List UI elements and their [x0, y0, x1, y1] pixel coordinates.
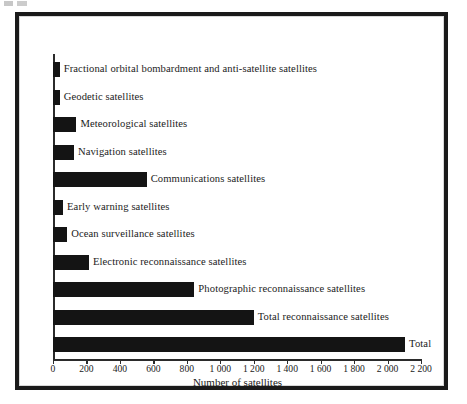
figure-frame: Fractional orbital bombardment and anti-…: [15, 12, 448, 390]
bar-label: Geodetic satellites: [60, 92, 144, 103]
bar-row: Geodetic satellites: [53, 84, 144, 112]
bar-row: Fractional orbital bombardment and anti-…: [53, 56, 317, 84]
bar-label: Total: [405, 339, 431, 350]
bar-row: Navigation satellites: [53, 139, 167, 167]
bar: [53, 200, 63, 215]
scan-artifact: [4, 1, 30, 6]
x-axis-tick-label: 800: [180, 364, 194, 374]
x-axis-tick-label: 0: [51, 364, 56, 374]
bar-label: Navigation satellites: [74, 147, 167, 158]
bar: [53, 310, 254, 325]
x-axis-tick-label: 2 000: [377, 364, 399, 374]
x-axis-tick-label: 2 200: [410, 364, 432, 374]
plot-area: Fractional orbital bombardment and anti-…: [53, 54, 421, 360]
x-axis-title: Number of satellites: [53, 376, 422, 388]
bar: [53, 62, 60, 77]
bar: [53, 117, 76, 132]
x-axis-tick-label: 200: [79, 364, 93, 374]
bar-label: Photographic reconnaissance satellites: [194, 284, 365, 295]
bar-row: Photographic reconnaissance satellites: [53, 276, 365, 304]
bar: [53, 255, 89, 270]
x-axis-tick-label: 1 800: [343, 364, 365, 374]
bar-row: Communications satellites: [53, 166, 265, 194]
bar-label: Ocean surveillance satellites: [67, 229, 195, 240]
bar-row: Meteorological satellites: [53, 111, 187, 139]
x-axis-tick-label: 1 600: [310, 364, 332, 374]
bar-label: Communications satellites: [147, 174, 266, 185]
bar-label: Fractional orbital bombardment and anti-…: [60, 64, 317, 75]
bar-label: Electronic reconnaissance satellites: [89, 257, 247, 268]
x-axis-tick-label: 1 200: [243, 364, 265, 374]
x-axis-tick-label: 1 000: [209, 364, 231, 374]
bar: [53, 337, 405, 352]
bar-row: Electronic reconnaissance satellites: [53, 249, 247, 277]
x-axis-tick-label: 400: [113, 364, 127, 374]
bar: [53, 90, 60, 105]
bar-row: Ocean surveillance satellites: [53, 221, 195, 249]
bar: [53, 145, 74, 160]
bar-label: Total reconnaissance satellites: [254, 312, 389, 323]
bar: [53, 172, 147, 187]
bar: [53, 282, 194, 297]
bar-label: Meteorological satellites: [76, 119, 187, 130]
bar-row: Total reconnaissance satellites: [53, 304, 389, 332]
x-axis-tick-label: 1 400: [276, 364, 298, 374]
x-axis-tick-label: 600: [146, 364, 160, 374]
bar-row: Early warning satellites: [53, 194, 169, 222]
bar-row: Total: [53, 331, 431, 359]
bar: [53, 227, 67, 242]
bar-label: Early warning satellites: [63, 202, 169, 213]
